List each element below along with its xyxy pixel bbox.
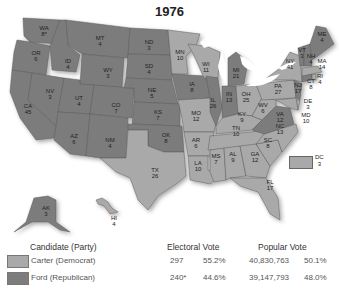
svg-text:25: 25 xyxy=(243,97,250,103)
electoral-pct: 44.6% xyxy=(203,273,226,282)
svg-text:45: 45 xyxy=(25,109,32,115)
popular-pct: 48.0% xyxy=(304,273,327,282)
svg-text:27: 27 xyxy=(275,89,282,95)
svg-text:13: 13 xyxy=(277,129,284,135)
svg-text:41: 41 xyxy=(287,64,294,70)
svg-text:3: 3 xyxy=(306,104,310,110)
candidate-name: Ford (Republican) xyxy=(31,273,95,282)
state-ak xyxy=(14,196,70,232)
svg-text:12: 12 xyxy=(193,116,200,122)
popular-votes: 39,147,793 xyxy=(249,273,289,282)
dc-label: DC3 xyxy=(315,154,324,168)
svg-text:17: 17 xyxy=(295,88,302,94)
svg-text:13: 13 xyxy=(226,97,233,103)
electoral-votes: 240* xyxy=(170,273,186,282)
state-hi xyxy=(96,198,118,214)
svg-text:8*: 8* xyxy=(41,31,47,37)
dc-swatch xyxy=(289,156,313,169)
svg-text:14: 14 xyxy=(319,64,326,70)
popular-votes: 40,830,763 xyxy=(249,256,289,265)
popular-pct: 50.1% xyxy=(304,256,327,265)
svg-text:21: 21 xyxy=(233,73,240,79)
electoral-votes: 297 xyxy=(170,256,183,265)
state-nm xyxy=(86,114,128,158)
svg-text:4: 4 xyxy=(318,79,322,85)
svg-text:12: 12 xyxy=(252,157,259,163)
electoral-header: Electoral Vote xyxy=(167,242,219,252)
svg-text:11: 11 xyxy=(203,67,210,73)
legend-row-carter: Carter (Democrat) 297 55.2% 40,830,763 5… xyxy=(0,255,339,269)
svg-text:12: 12 xyxy=(277,117,284,123)
svg-text:4: 4 xyxy=(309,59,313,65)
democrat-swatch xyxy=(7,255,29,268)
state-wy xyxy=(80,54,124,88)
popular-header: Popular Vote xyxy=(258,242,307,252)
legend-row-ford: Ford (Republican) 240* 44.6% 39,147,793 … xyxy=(0,272,339,286)
svg-text:8: 8 xyxy=(309,84,313,90)
republican-swatch xyxy=(7,272,29,285)
svg-text:10: 10 xyxy=(195,166,202,172)
svg-text:10: 10 xyxy=(177,55,184,61)
candidate-header: Candidate (Party) xyxy=(30,242,97,252)
svg-text:4: 4 xyxy=(112,221,116,227)
svg-text:17: 17 xyxy=(267,185,274,191)
electoral-pct: 55.2% xyxy=(203,256,226,265)
state-or xyxy=(12,40,50,75)
svg-text:26: 26 xyxy=(210,103,217,109)
svg-text:10: 10 xyxy=(233,131,240,137)
svg-text:26: 26 xyxy=(152,173,159,179)
candidate-name: Carter (Democrat) xyxy=(31,256,95,265)
svg-text:10: 10 xyxy=(303,118,310,124)
us-electoral-map: WA8* OR6 CA45 ID4 NV3 MT4 WY3 UT4 AZ6 CO… xyxy=(0,0,339,240)
